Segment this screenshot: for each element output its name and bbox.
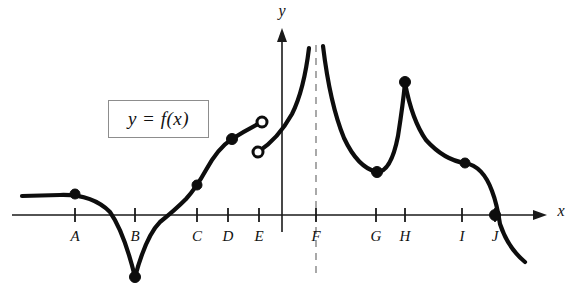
curve-segment-cusp-B-rise-through-C (135, 122, 262, 277)
point-G-local-min (372, 167, 383, 178)
x-axis-arrowhead (533, 210, 547, 220)
graph-canvas: ABCDEFGHIJ x y (0, 0, 588, 294)
tick-label-E: E (253, 228, 263, 244)
tick-label-A: A (69, 228, 80, 244)
point-D-filled (227, 134, 238, 145)
tick-label-I: I (459, 228, 466, 244)
tick-label-J: J (492, 228, 500, 244)
tick-label-C: C (192, 228, 203, 244)
point-C-inflection (192, 180, 202, 190)
point-I-inflection (460, 158, 470, 168)
point-E-jump-upper (257, 117, 267, 127)
point-E-jump-lower (253, 147, 263, 157)
function-label-text: y = f(x) (128, 108, 189, 130)
y-axis-arrowhead (277, 28, 287, 42)
tick-label-D: D (222, 228, 234, 244)
tick-label-F: F (310, 228, 321, 244)
x-axis-label: x (556, 202, 564, 219)
point-J-x-intercept (490, 210, 501, 221)
curve-segment-asymptote-right-branch-to-G (323, 46, 377, 172)
y-axis-label: y (276, 2, 286, 20)
tick-labels-group: ABCDEFGHIJ (69, 228, 499, 244)
function-graph-figure: ABCDEFGHIJ x y y = f(x) (0, 0, 588, 294)
curve-group (22, 46, 525, 277)
curve-segment-post-jump-rise-to-asymptote (258, 48, 309, 152)
tick-label-G: G (371, 228, 382, 244)
function-label-box: y = f(x) (108, 100, 209, 138)
tick-label-B: B (130, 228, 139, 244)
point-B-cusp-min (130, 272, 141, 283)
curve-segment-G-to-cusp-H (377, 83, 405, 172)
point-H-cusp-max (400, 77, 411, 88)
point-A (70, 189, 80, 199)
curve-segment-cusp-H-descend-through-I-to-J-and-beyond (405, 83, 525, 262)
tick-label-H: H (399, 228, 412, 244)
